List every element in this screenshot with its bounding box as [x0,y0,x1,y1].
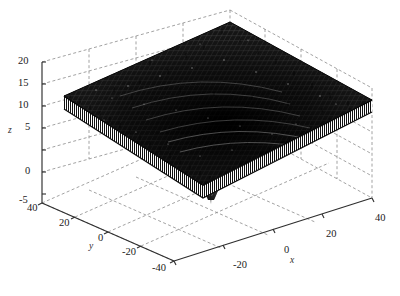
z-tick-label-20: 20 [18,56,29,67]
y-tick-label-neg40: -40 [152,263,166,274]
y-tick-label-0: 0 [98,233,103,244]
y-tick-label-40: 40 [27,203,38,214]
x-axis-title: x [290,256,294,266]
x-tick-marks [174,198,374,265]
y-axis-title: y [89,242,93,252]
x-tick-label-0: 0 [284,245,289,256]
surface-plot-svg [0,0,400,296]
z-axis-title: z [8,126,12,136]
z-tick-label-15: 15 [18,78,29,89]
x-tick-label-40: 40 [375,213,386,224]
z-tick-label-5: 5 [25,122,30,133]
z-tick-marks [42,62,46,194]
figure-canvas: 20 15 10 5 0 -5 z 40 20 0 -20 -40 y -20 … [0,0,400,296]
x-tick-label-20: 20 [326,229,337,240]
z-tick-label-0: 0 [25,166,30,177]
y-tick-label-neg20: -20 [122,247,136,258]
y-tick-label-20: 20 [59,218,70,229]
surface-plateau [60,18,380,190]
x-tick-label-neg20: -20 [233,260,247,271]
z-tick-label-10: 10 [18,100,29,111]
